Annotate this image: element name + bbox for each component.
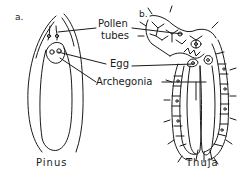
thuja-ovule-drawing	[138, 6, 236, 164]
label-leader-lines	[58, 28, 206, 100]
pollen-tubes-label-line1: Pollen	[98, 19, 128, 29]
egg-label: Egg	[110, 59, 129, 69]
ovule-comparison-figure: a. b. Pollen tubes Egg Archegonia Pinus …	[0, 0, 247, 179]
pollen-tubes-label-line2: tubes	[101, 31, 129, 41]
thuja-caption: Thuja	[186, 157, 219, 168]
archegonia-label: Archegonia	[96, 77, 152, 87]
pinus-ovule-drawing	[28, 14, 83, 152]
panel-b-letter: b.	[139, 10, 148, 19]
panel-a-letter: a.	[15, 13, 23, 22]
pinus-caption: Pinus	[36, 157, 67, 168]
